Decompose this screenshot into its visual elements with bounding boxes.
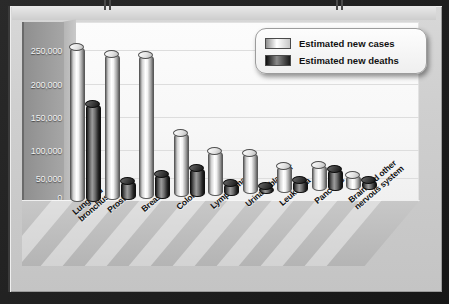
bar-deaths	[86, 104, 101, 202]
bar-body	[277, 166, 292, 193]
bar-cap	[258, 182, 273, 190]
bar-cases	[105, 54, 120, 200]
bar-deaths	[190, 168, 205, 197]
bar-body	[86, 104, 101, 202]
legend-swatch-deaths	[265, 55, 291, 66]
bar-cap	[311, 161, 326, 169]
bar-cap	[292, 176, 307, 184]
bar-cap	[104, 50, 119, 58]
bar-deaths	[362, 180, 377, 190]
bar-cap	[242, 149, 257, 157]
bar-body	[243, 153, 258, 194]
bar-body	[312, 165, 327, 191]
bar-cases	[70, 47, 85, 202]
bar-deaths	[293, 180, 308, 193]
bar-deaths	[224, 183, 239, 196]
bar-cap	[120, 177, 135, 185]
bar-cases	[346, 175, 361, 189]
legend-swatch-cases	[265, 38, 291, 49]
bar-cap	[327, 165, 342, 173]
bar-cases	[277, 166, 292, 193]
bar-deaths	[328, 169, 343, 191]
bar-deaths	[121, 181, 136, 200]
bar-cap	[361, 176, 376, 184]
bar-cases	[174, 133, 189, 198]
bar-deaths	[259, 186, 274, 194]
legend-item-cases: Estimated new cases	[265, 36, 395, 50]
bar-deaths	[155, 174, 170, 199]
bar-cases	[243, 153, 258, 194]
bar-body	[70, 47, 85, 202]
bar-body	[105, 54, 120, 200]
bar-cases	[139, 55, 154, 199]
legend-label-deaths: Estimated new deaths	[299, 55, 399, 66]
bar-cases	[208, 151, 223, 196]
bar-body	[208, 151, 223, 196]
legend-label-cases: Estimated new cases	[299, 38, 395, 49]
bar-body	[190, 168, 205, 197]
legend-item-deaths: Estimated new deaths	[265, 53, 399, 67]
bar-cases	[312, 165, 327, 191]
bar-body	[139, 55, 154, 199]
legend: Estimated new cases Estimated new deaths	[255, 28, 427, 74]
bar-cap	[173, 129, 188, 137]
chart-frame: 250,000 200,000 150,000 100,000 50,000 0…	[0, 0, 449, 304]
bar-body	[174, 133, 189, 198]
